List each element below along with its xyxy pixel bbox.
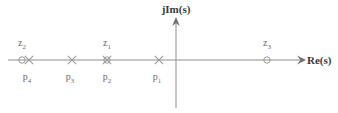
- point-label-p3: p3: [66, 71, 75, 85]
- real-axis-label: Re(s): [307, 54, 332, 67]
- point-label-z3: z3: [263, 37, 271, 51]
- imaginary-axis-label: jIm(s): [161, 3, 191, 16]
- point-label-z2: z2: [18, 37, 26, 51]
- pole-zero-plot: jIm(s) Re(s) z2z1z3p4p3p2p1: [0, 0, 338, 113]
- point-label-p4: p4: [23, 71, 32, 85]
- point-label-p1: p1: [153, 71, 162, 85]
- point-label-z1: z1: [103, 37, 111, 51]
- point-labels-layer: z2z1z3p4p3p2p1: [18, 37, 271, 85]
- point-label-p2: p2: [103, 71, 112, 85]
